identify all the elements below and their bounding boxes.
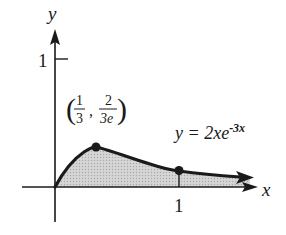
x-axis-label: x [261,179,271,200]
point-at-x-1 [175,166,184,175]
function-label-base: y = 2xe [173,123,229,143]
x-denominator: 3 [76,111,83,126]
y-numerator: 2 [105,93,112,108]
maximum-point [92,143,101,152]
svg-text:,: , [89,102,93,119]
x-numerator: 1 [76,93,83,108]
svg-text:): ) [117,92,127,126]
y-denominator: 3e [99,111,113,126]
function-label: y = 2xe-3x [173,121,245,143]
y-axis-label: y [46,3,57,24]
y-tick-label-1: 1 [38,50,48,71]
x-tick-label-1: 1 [174,195,184,216]
maximum-point-label: ( 1 3 , 2 3e ) [66,92,127,126]
chart-canvas: y x 1 1 y = 2xe-3x ( 1 3 , 2 3e ) [0,0,286,235]
function-label-exponent: -3x [229,121,245,135]
